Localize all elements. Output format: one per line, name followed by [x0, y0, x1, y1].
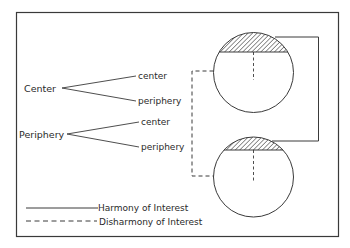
center-center-label: center — [138, 71, 167, 81]
periphery-root-label: Periphery — [19, 129, 65, 140]
center-root-label: Center — [24, 83, 56, 94]
tree-periphery-branch: Periphery center periphery — [19, 117, 185, 152]
harmony-connector — [272, 37, 319, 141]
periphery-center-label: center — [141, 117, 170, 127]
top-nation-circle — [210, 28, 300, 113]
disharmony-connector — [192, 71, 214, 176]
legend-harmony-label: Harmony of Interest — [98, 203, 189, 213]
bottom-nation-circle — [210, 134, 300, 217]
legend: Harmony of Interest Disharmony of Intere… — [26, 203, 203, 227]
top-center-hatch — [210, 28, 300, 52]
tree-center-branch: Center center periphery — [24, 71, 182, 106]
legend-disharmony-label: Disharmony of Interest — [99, 217, 203, 227]
periphery-periphery-label: periphery — [141, 142, 185, 152]
bottom-center-hatch — [210, 134, 300, 150]
center-periphery-label: periphery — [138, 96, 182, 106]
diagram-canvas: Center center periphery Periphery center… — [0, 0, 350, 248]
